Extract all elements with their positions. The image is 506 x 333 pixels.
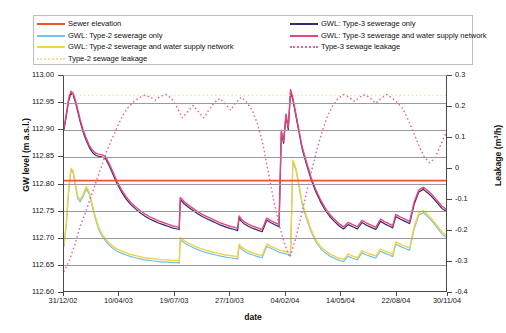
- legend-item[interactable]: GWL: Type-3 sewerage only: [290, 18, 487, 30]
- y-axis-tick-right: [447, 75, 452, 76]
- legend-column-left: Sewer elevationGWL: Type-2 sewerage only…: [37, 18, 234, 64]
- legend-item[interactable]: Type-2 sewage leakage: [37, 53, 234, 65]
- legend-swatch-icon: [290, 30, 318, 41]
- legend-label: GWL: Type-2 sewerage and water supply ne…: [68, 42, 234, 51]
- y-axis-tick-label-left: 112.75: [14, 206, 54, 215]
- legend-swatch-icon: [37, 41, 65, 52]
- legend-item[interactable]: Sewer elevation: [37, 18, 234, 30]
- y-axis-tick-label-right: 0: [455, 163, 485, 172]
- x-axis-tick: [285, 292, 286, 296]
- gridline: [64, 157, 446, 158]
- y-axis-tick-label-left: 112.85: [14, 151, 54, 160]
- x-axis-tick: [63, 292, 64, 296]
- x-axis-tick-label: 31/12/02: [33, 296, 93, 305]
- y-axis-tick-right: [447, 168, 452, 169]
- legend-item[interactable]: GWL: Type-2 sewerage and water supply ne…: [37, 41, 234, 53]
- y-axis-tick-right: [447, 199, 452, 200]
- series-line-gwl-type2-sewerage-only: [64, 162, 447, 263]
- legend-swatch-icon: [290, 18, 318, 29]
- legend-item[interactable]: GWL: Type-3 sewerage and water supply ne…: [290, 30, 487, 42]
- y-axis-tick-label-left: 113.00: [14, 70, 54, 79]
- gridline: [64, 184, 446, 185]
- y-axis-title-right: Leakage (m3/h): [493, 85, 504, 225]
- x-axis-tick: [229, 292, 230, 296]
- y-axis-tick-label-left: 112.60: [14, 287, 54, 296]
- legend-label: GWL: Type-3 sewerage only: [321, 19, 415, 28]
- y-axis-tick-label-left: 112.70: [14, 233, 54, 242]
- legend-label: GWL: Type-3 sewerage and water supply ne…: [321, 31, 487, 40]
- gridline: [64, 211, 446, 212]
- x-axis-tick-label: 14/05/04: [310, 296, 370, 305]
- y-axis-tick-label-right: 0.1: [455, 132, 485, 141]
- plot-area: [63, 75, 447, 292]
- y-axis-tick-left: [58, 238, 63, 239]
- y-axis-tick-label-right: -0.2: [455, 225, 485, 234]
- y-axis-tick-left: [58, 156, 63, 157]
- y-axis-tick-left: [58, 129, 63, 130]
- y-axis-tick-right: [447, 261, 452, 262]
- y-axis-tick-label-left: 112.65: [14, 260, 54, 269]
- y-axis-tick-right: [447, 106, 452, 107]
- y-axis-tick-label-right: -0.3: [455, 256, 485, 265]
- series-line-type3-sewage-leakage: [64, 95, 447, 272]
- x-axis-title: date: [0, 312, 506, 322]
- legend-label: Type-2 sewage leakage: [68, 54, 147, 63]
- legend-label: GWL: Type-2 sewerage only: [68, 31, 162, 40]
- y-axis-tick-left: [58, 265, 63, 266]
- y-axis-tick-label-right: -0.4: [455, 287, 485, 296]
- legend-item[interactable]: GWL: Type-2 sewerage only: [37, 30, 234, 42]
- y-axis-tick-label-left: 112.80: [14, 179, 54, 188]
- y-axis-tick-left: [58, 102, 63, 103]
- legend-swatch-icon: [37, 53, 65, 64]
- y-axis-tick-right: [447, 230, 452, 231]
- legend-item[interactable]: Type-3 sewage leakage: [290, 41, 487, 53]
- y-axis-tick-left: [58, 75, 63, 76]
- x-axis-tick: [396, 292, 397, 296]
- x-axis-tick: [118, 292, 119, 296]
- x-axis-tick: [447, 292, 448, 296]
- x-axis-tick-label: 19/07/03: [144, 296, 204, 305]
- legend-swatch-icon: [37, 18, 65, 29]
- x-axis-tick-label: 27/10/03: [199, 296, 259, 305]
- y-axis-tick-left: [58, 211, 63, 212]
- gridline: [64, 238, 446, 239]
- y-axis-tick-label-right: 0.3: [455, 70, 485, 79]
- legend-label: Sewer elevation: [68, 19, 121, 28]
- y-axis-tick-right: [447, 137, 452, 138]
- x-axis-tick: [340, 292, 341, 296]
- gridline: [64, 130, 446, 131]
- legend-label: Type-3 sewage leakage: [321, 42, 400, 51]
- y-axis-tick-left: [58, 184, 63, 185]
- x-axis-tick-label: 10/04/03: [88, 296, 148, 305]
- x-axis-tick-label: 04/02/04: [255, 296, 315, 305]
- y-axis-tick-label-right: 0.2: [455, 101, 485, 110]
- legend-swatch-icon: [290, 41, 318, 52]
- x-axis-tick-label: 30/11/04: [417, 296, 477, 305]
- legend-swatch-icon: [37, 30, 65, 41]
- y-axis-tick-label-left: 112.90: [14, 124, 54, 133]
- chart-figure: Sewer elevationGWL: Type-2 sewerage only…: [0, 0, 506, 333]
- series-line-gwl-type3-sewerage-and-water-supply: [64, 90, 447, 230]
- gridline: [64, 265, 446, 266]
- x-axis-tick: [174, 292, 175, 296]
- chart-legend: Sewer elevationGWL: Type-2 sewerage only…: [33, 15, 473, 65]
- gridline: [64, 103, 446, 104]
- y-axis-tick-label-left: 112.95: [14, 97, 54, 106]
- legend-column-right: GWL: Type-3 sewerage onlyGWL: Type-3 sew…: [290, 18, 487, 53]
- y-axis-tick-label-right: -0.1: [455, 194, 485, 203]
